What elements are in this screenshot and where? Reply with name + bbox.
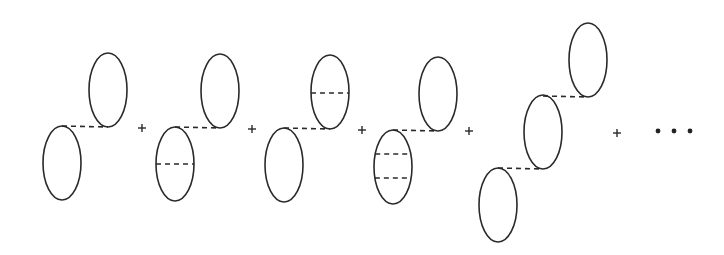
dashed-propagator-line <box>498 168 543 169</box>
dashed-propagator-line <box>62 126 108 127</box>
loop-ellipse <box>569 23 607 97</box>
loop-ellipse <box>265 128 303 202</box>
ellipsis-dots <box>656 129 693 134</box>
plus-sign <box>138 124 146 132</box>
diagram-term-5 <box>479 23 607 242</box>
diagram-term-1 <box>43 53 127 200</box>
dashed-propagator-line <box>175 127 220 128</box>
dashed-propagator-line <box>393 130 438 131</box>
loop-ellipse <box>479 168 517 242</box>
plus-sign <box>248 125 256 133</box>
loop-ellipse <box>374 130 412 204</box>
loop-ellipse <box>311 55 349 129</box>
plus-sign <box>613 129 621 137</box>
diagram-term-3 <box>265 55 349 202</box>
plus-sign <box>358 126 366 134</box>
loop-ellipse <box>419 57 457 131</box>
loop-ellipse <box>89 53 127 127</box>
loop-ellipse <box>524 95 562 169</box>
diagram-term-2 <box>156 54 239 201</box>
diagram-term-4 <box>374 57 457 204</box>
plus-sign <box>465 127 473 135</box>
loop-ellipse <box>43 126 81 200</box>
bubble-diagram-series <box>0 0 724 255</box>
loop-ellipse <box>201 54 239 128</box>
dashed-propagator-line <box>284 128 330 129</box>
